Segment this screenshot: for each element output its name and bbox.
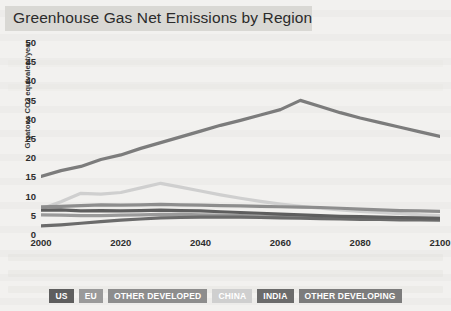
y-axis-tick: 30 <box>25 113 36 124</box>
y-axis-tick: 45 <box>25 56 36 67</box>
y-axis-tick: 10 <box>25 190 36 201</box>
y-axis-tick: 25 <box>25 133 36 144</box>
page-title: Greenhouse Gas Net Emissions by Region <box>13 9 312 27</box>
x-axis-tick: 2000 <box>30 237 51 248</box>
series-line-other-developing <box>41 100 440 176</box>
x-axis-tick: 2100 <box>429 237 450 248</box>
legend-item-india[interactable]: INDIA <box>257 289 293 303</box>
x-axis-tick: 2020 <box>110 237 131 248</box>
y-axis-tick: 40 <box>25 75 36 86</box>
x-axis-tick: 2060 <box>270 237 291 248</box>
y-axis-tick: 35 <box>25 94 36 105</box>
legend-item-other-developing[interactable]: OTHER DEVELOPING <box>299 289 402 303</box>
x-axis-tick: 2080 <box>350 237 371 248</box>
legend-item-china[interactable]: CHINA <box>212 289 252 303</box>
y-axis-tick: 50 <box>25 37 36 48</box>
legend-item-other-developed[interactable]: OTHER DEVELOPED <box>108 289 208 303</box>
y-axis-tick: 5 <box>31 209 36 220</box>
y-axis-tick: 15 <box>25 171 36 182</box>
chart-legend: USEUOTHER DEVELOPEDCHINAINDIAOTHER DEVEL… <box>0 289 451 303</box>
y-axis-tick: 20 <box>25 152 36 163</box>
legend-item-eu[interactable]: EU <box>79 289 103 303</box>
line-chart-svg <box>41 42 440 234</box>
legend-item-us[interactable]: US <box>49 289 73 303</box>
plot-area: 0510152025303540455020002020204020602080… <box>41 42 440 234</box>
x-axis-tick: 2040 <box>190 237 211 248</box>
